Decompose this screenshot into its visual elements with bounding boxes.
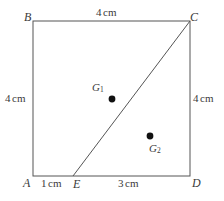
point-g2-dot <box>147 133 154 140</box>
vertex-label-e: E <box>73 178 80 190</box>
dimension-label-top: 4cm <box>96 7 117 18</box>
vertex-label-c: C <box>190 11 198 23</box>
dimension-bottom-left-value: 1 <box>41 177 47 189</box>
vertex-label-a: A <box>23 177 30 189</box>
point-label-g1: G1 <box>92 82 104 94</box>
point-label-g2: G2 <box>149 143 161 155</box>
dimension-label-left: 4cm <box>5 93 26 104</box>
diagram-canvas <box>0 0 224 201</box>
dimension-label-bottom-left: 1cm <box>41 178 62 189</box>
point-label-g2-letter: G <box>149 142 157 154</box>
point-label-g1-letter: G <box>92 81 100 93</box>
segment-e-to-c <box>73 21 190 176</box>
dimension-top-value: 4 <box>96 6 102 18</box>
dimension-bottom-right-unit: cm <box>125 177 139 189</box>
dimension-top-unit: cm <box>103 6 117 18</box>
dimension-label-right: 4cm <box>193 93 214 104</box>
dimension-left-value: 4 <box>5 92 11 104</box>
dimension-right-unit: cm <box>200 92 214 104</box>
vertex-label-b: B <box>24 11 31 23</box>
dimension-bottom-left-unit: cm <box>48 177 62 189</box>
dimension-bottom-right-value: 3 <box>118 177 124 189</box>
dimension-label-bottom-right: 3cm <box>118 178 139 189</box>
vertex-label-d: D <box>192 177 201 189</box>
point-label-g1-subscript: 1 <box>100 85 104 94</box>
point-label-g2-subscript: 2 <box>157 146 161 155</box>
dimension-right-value: 4 <box>193 92 199 104</box>
geometry-diagram: B C A D E G1 G2 4cm 4cm 4cm 1cm 3cm <box>0 0 224 201</box>
point-g1-dot <box>109 96 116 103</box>
dimension-left-unit: cm <box>12 92 26 104</box>
